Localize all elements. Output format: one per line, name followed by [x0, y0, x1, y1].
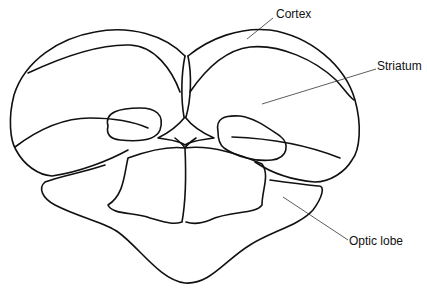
brain-diagram	[0, 0, 427, 293]
left-hemisphere-outline	[10, 30, 185, 176]
central-junction	[175, 138, 196, 148]
optic-lobe-leader-line	[283, 197, 348, 240]
optic-lobe-outline	[42, 165, 323, 283]
central-fissure-right	[186, 56, 190, 117]
striatum-label: Striatum	[377, 60, 422, 72]
left-cortex-boundary	[28, 45, 180, 92]
cortex-leader-line	[247, 18, 273, 39]
right-cortex-boundary	[190, 47, 354, 100]
striatum-leader-line	[262, 69, 376, 104]
central-small-lobes	[158, 117, 214, 145]
cortex-label: Cortex	[276, 8, 311, 20]
optic-lobe-label: Optic lobe	[349, 235, 403, 247]
central-fissure-left	[182, 56, 185, 117]
left-striatum-boundary	[15, 118, 148, 147]
left-inner-lobe	[107, 108, 161, 141]
left-tectum	[108, 147, 186, 223]
